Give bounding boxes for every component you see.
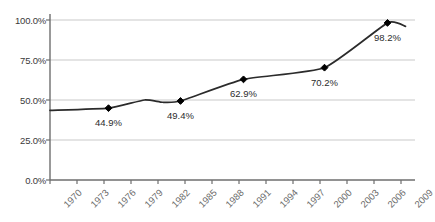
data-point-marker[interactable] <box>105 105 112 112</box>
y-axis-tick-label: 100.0% <box>0 15 46 26</box>
data-point-value-label: 44.9% <box>95 117 122 128</box>
data-point-value-label: 70.2% <box>311 77 338 88</box>
data-point-value-label: 98.2% <box>374 32 401 43</box>
y-axis-tick-label: 25.0% <box>0 135 46 146</box>
y-axis-tick-label: 75.0% <box>0 55 46 66</box>
data-point-marker[interactable] <box>177 98 184 105</box>
y-axis-tick-label: 50.0% <box>0 95 46 106</box>
series-line <box>50 22 406 111</box>
data-point-marker[interactable] <box>240 76 247 83</box>
data-point-value-label: 62.9% <box>230 88 257 99</box>
data-point-value-label: 49.4% <box>167 110 194 121</box>
y-axis-tick-label: 0.0% <box>0 175 46 186</box>
data-point-marker[interactable] <box>321 64 328 71</box>
